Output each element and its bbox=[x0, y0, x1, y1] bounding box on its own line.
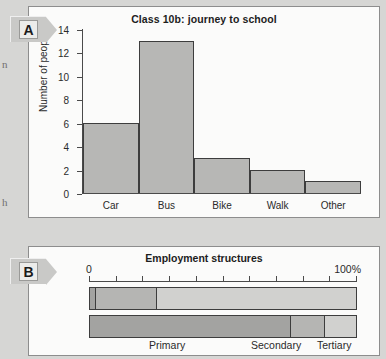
chart-a-title: Class 10b: journey to school bbox=[29, 13, 379, 25]
chart-b-x-tick bbox=[89, 276, 90, 281]
chart-a-y-tick: 0 bbox=[77, 194, 82, 195]
chart-b-x-tick bbox=[356, 276, 357, 281]
section-marker-a-arrow bbox=[46, 17, 57, 43]
section-marker-b: B bbox=[10, 258, 46, 284]
chart-a-y-tick: 2 bbox=[77, 171, 82, 172]
chart-a-y-tick: 4 bbox=[77, 147, 82, 148]
chart-a-bar-cell bbox=[250, 29, 306, 193]
chart-b-segment-tertiary bbox=[156, 288, 356, 309]
section-marker-b-letter: B bbox=[19, 262, 38, 281]
chart-b-segment-label: Tertiary bbox=[317, 339, 351, 351]
chart-a-bar bbox=[83, 123, 139, 193]
chart-a-y-tick-label: 8 bbox=[63, 95, 69, 106]
chart-b-x-tick bbox=[169, 276, 170, 281]
chart-b-segment-label: Primary bbox=[149, 339, 185, 351]
chart-a-y-tick-label: 2 bbox=[63, 165, 69, 176]
chart-panel-b: Employment structures 0 100% UK Kenya Pr… bbox=[28, 246, 380, 356]
margin-text-fragment-2: h bbox=[2, 196, 8, 208]
chart-b-bar-kenya: Kenya bbox=[89, 315, 357, 338]
chart-b-x-tick bbox=[142, 276, 143, 281]
chart-b-scale-start-label: 0 bbox=[86, 263, 92, 275]
section-marker-b-arrow bbox=[46, 259, 57, 285]
chart-a-bar bbox=[194, 158, 250, 193]
chart-a-y-axis-label: Number of people bbox=[38, 33, 49, 113]
chart-b-segment-primary bbox=[90, 316, 290, 337]
chart-b-x-tick bbox=[196, 276, 197, 281]
section-marker-a-letter: A bbox=[19, 20, 38, 39]
chart-a-bars bbox=[83, 29, 361, 193]
chart-panel-a: Class 10b: journey to school Number of p… bbox=[28, 6, 380, 218]
chart-a-bar bbox=[139, 41, 195, 193]
margin-text-fragment-1: n bbox=[2, 58, 8, 70]
chart-b-x-tick bbox=[116, 276, 117, 281]
chart-a-bar-cell bbox=[139, 29, 195, 193]
chart-a-x-tick-label: Walk bbox=[250, 200, 306, 211]
chart-a-y-tick-label: 6 bbox=[63, 118, 69, 129]
chart-b-segment-label: Secondary bbox=[251, 339, 301, 351]
chart-b-segment-secondary bbox=[95, 288, 156, 309]
chart-b-x-tick bbox=[303, 276, 304, 281]
chart-b-scale-end-label: 100% bbox=[334, 263, 361, 275]
chart-b-x-tick bbox=[223, 276, 224, 281]
chart-a-x-tick-label: Bus bbox=[139, 200, 195, 211]
chart-a-y-tick-label: 10 bbox=[58, 71, 69, 82]
chart-a-x-tick-labels: CarBusBikeWalkOther bbox=[83, 194, 361, 211]
chart-a-x-tick-label: Bike bbox=[194, 200, 250, 211]
chart-b-bar-uk: UK bbox=[89, 287, 357, 310]
chart-a-y-tick-label: 12 bbox=[58, 48, 69, 59]
page-root: n h Class 10b: journey to school Number … bbox=[0, 0, 386, 359]
chart-a-y-tick: 6 bbox=[77, 124, 82, 125]
chart-a-y-tick-label: 14 bbox=[58, 25, 69, 36]
chart-a-y-tick: 10 bbox=[77, 77, 82, 78]
chart-a-x-tick-label: Other bbox=[305, 200, 361, 211]
chart-b-segment-secondary bbox=[290, 316, 325, 337]
chart-b-title: Employment structures bbox=[29, 252, 379, 264]
chart-b-scale-axis: 0 100% bbox=[89, 281, 357, 282]
chart-a-bar-cell bbox=[305, 29, 361, 193]
chart-a-y-tick-label: 4 bbox=[63, 142, 69, 153]
chart-a-bar bbox=[305, 181, 361, 193]
chart-a-y-tick: 14 bbox=[77, 30, 82, 31]
chart-a-plot-area: 14121086420 CarBusBikeWalkOther bbox=[82, 29, 361, 194]
chart-a-bar bbox=[250, 170, 306, 193]
chart-a-bar-cell bbox=[194, 29, 250, 193]
chart-b-x-tick bbox=[329, 276, 330, 281]
chart-a-y-tick: 8 bbox=[77, 100, 82, 101]
chart-b-segment-tertiary bbox=[324, 316, 356, 337]
chart-a-x-tick-label: Car bbox=[83, 200, 139, 211]
chart-b-x-tick bbox=[249, 276, 250, 281]
chart-a-bar-cell bbox=[83, 29, 139, 193]
chart-a-y-tick: 12 bbox=[77, 53, 82, 54]
chart-a-y-tick-label: 0 bbox=[63, 189, 69, 200]
chart-b-x-tick bbox=[276, 276, 277, 281]
section-marker-a: A bbox=[10, 16, 46, 42]
